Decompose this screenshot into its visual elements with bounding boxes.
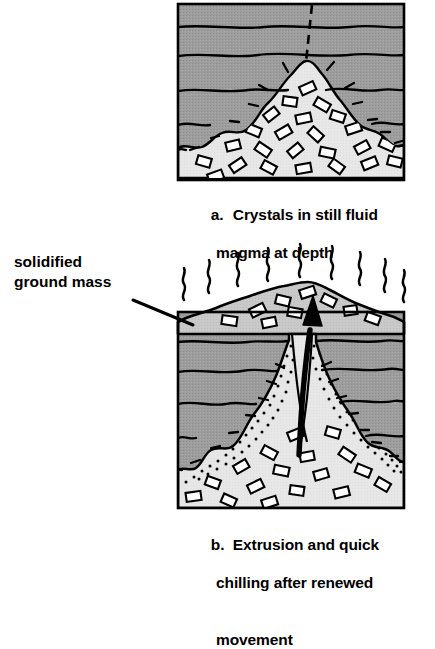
- panel-a-marker: a.: [211, 205, 233, 224]
- panel-a-caption-line1: Crystals in still fluid: [233, 206, 378, 223]
- panel-a-caption-line2: magma at depth: [216, 243, 424, 262]
- panel-b-marker: b.: [211, 535, 233, 554]
- panel-b-caption-line1: Extrusion and quick: [233, 536, 379, 553]
- panel-a-diagram: [178, 4, 404, 183]
- panel-b-caption: b.Extrusion and quick chilling after ren…: [194, 516, 430, 649]
- solidified-ground-mass-label: solidified ground mass: [14, 252, 111, 292]
- panel-b-caption-line3: movement: [216, 630, 430, 649]
- panel-b-caption-line2: chilling after renewed: [216, 573, 430, 592]
- panel-a-caption: a.Crystals in still fluid magma at depth: [194, 186, 424, 300]
